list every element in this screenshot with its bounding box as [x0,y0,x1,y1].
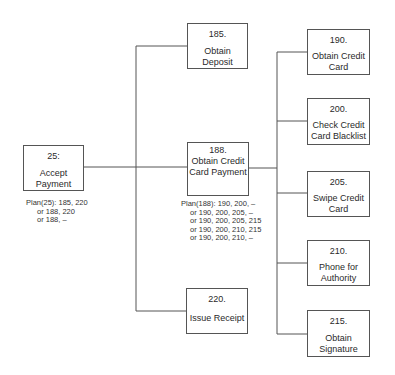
plan-line: or 190, 200, 210, – [181,234,261,243]
task-label: Obtain Credit Card Payment [188,156,248,178]
task-number: 190. [308,35,369,46]
task-number: 215. [308,316,369,327]
task-label: Obtain Deposit [188,46,247,68]
task-number: 205. [308,177,369,188]
task-box-200: 200. Check Credit Card Blacklist [307,98,370,145]
task-box-188: 188. Obtain Credit Card Payment [187,142,249,196]
task-box-220: 220. Issue Receipt [186,288,248,334]
task-label: Phone for Authority [308,262,369,284]
task-label: Accept Payment [24,168,83,190]
task-box-25: 25: Accept Payment [23,145,84,191]
task-number: 210. [308,246,369,257]
task-number: 188. [188,145,248,156]
task-box-210: 210. Phone for Authority [307,240,370,286]
task-label: Swipe Credit Card [308,193,369,215]
plan-188: Plan(188): 190, 200, – or 190, 200, 205,… [181,200,261,243]
plan-line: or 188, – [26,216,88,225]
task-box-205: 205. Swipe Credit Card [307,171,370,217]
task-label: Issue Receipt [187,313,247,324]
task-label: Obtain Signature [308,333,369,355]
task-label: Obtain Credit Card [308,51,369,73]
task-number: 185. [188,29,247,40]
task-number: 220. [187,294,247,305]
plan-25: Plan(25): 185, 220 or 188, 220 or 188, – [26,199,88,225]
task-box-215: 215. Obtain Signature [307,310,370,357]
task-number: 200. [308,104,369,115]
task-box-185: 185. Obtain Deposit [187,23,248,69]
task-number: 25: [24,151,83,162]
task-label: Check Credit Card Blacklist [308,120,369,142]
task-box-190: 190. Obtain Credit Card [307,29,370,75]
